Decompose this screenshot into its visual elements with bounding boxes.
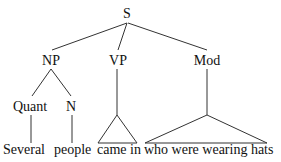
- node-mod: Mod: [194, 54, 220, 68]
- node-s: S: [123, 7, 131, 21]
- node-quant: Quant: [13, 100, 47, 114]
- node-np: NP: [42, 54, 60, 68]
- word-several: Several: [3, 143, 45, 157]
- word-mod-phrase: who were wearing hats: [144, 143, 273, 157]
- node-vp: VP: [109, 54, 127, 68]
- word-came-in: came in: [97, 143, 141, 157]
- word-people: people: [54, 143, 91, 157]
- node-n: N: [66, 100, 76, 114]
- tree-edges: [0, 0, 281, 162]
